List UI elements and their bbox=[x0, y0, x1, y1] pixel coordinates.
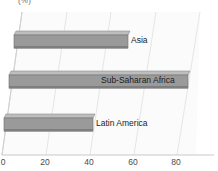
bar-latin-america bbox=[4, 114, 95, 132]
xtick-20: 20 bbox=[36, 157, 54, 167]
bar-chart: (%) bbox=[0, 0, 218, 171]
xtick-40: 40 bbox=[80, 157, 98, 167]
xtick-60: 60 bbox=[124, 157, 142, 167]
bar-label-asia: Asia bbox=[131, 35, 148, 45]
bar-asia bbox=[14, 31, 130, 49]
xtick-0: 0 bbox=[0, 157, 11, 167]
bar-label-latin-america: Latin America bbox=[96, 118, 148, 128]
chart-plot-area bbox=[0, 0, 218, 171]
xtick-80: 80 bbox=[167, 157, 185, 167]
bar-label-sub-saharan-africa: Sub-Saharan Africa bbox=[101, 75, 175, 85]
